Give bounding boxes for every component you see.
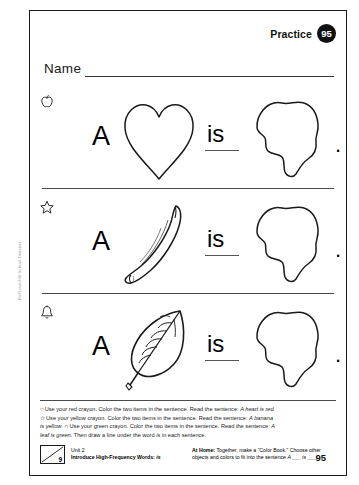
instruction-line-3: is yellow. ∩Use your green crayon. Color…: [40, 422, 336, 431]
instruction-line-1: ○Use your red crayon. Color the two item…: [40, 405, 336, 414]
word-is[interactable]: is: [207, 332, 239, 361]
at-home-note: At Home: Together, make a “Color Book.” …: [192, 447, 332, 461]
instruction-1-sentence: A heart is red.: [240, 406, 275, 412]
blob-outline-blank[interactable]: [252, 202, 324, 284]
lesson-label: Introduce High-Frequency Words: is: [71, 454, 181, 461]
name-field-row: Name: [44, 61, 334, 77]
instruction-4-text: Then draw a line under the word: [72, 432, 156, 438]
apple-icon: [39, 94, 55, 111]
leaf-outline-picture[interactable]: [118, 303, 200, 393]
sentence-period: .: [335, 351, 341, 360]
lesson-prefix: Introduce High-Frequency Words:: [71, 454, 156, 460]
instruction-4-text-end: in each sentence.: [160, 432, 206, 438]
instruction-2-sentence-cont: is yellow.: [40, 423, 63, 429]
footer-block: 9 Unit 2 Introduce High-Frequency Words:…: [40, 445, 336, 469]
sentence-period: .: [335, 246, 341, 255]
word-underline: [205, 150, 239, 151]
sentence-content: A is: [92, 196, 342, 291]
book-number: 9: [58, 456, 62, 463]
practice-header: Practice 95: [270, 24, 336, 43]
at-home-frame: A ___ is ___.: [287, 454, 317, 460]
instruction-3-sentence: A: [271, 423, 275, 429]
instruction-line-4: leaf is green. Then draw a line under th…: [40, 431, 336, 440]
blob-outline-blank[interactable]: [252, 97, 324, 179]
worksheet-sheet: Practice 95 Name A: [29, 10, 347, 476]
instruction-1-text: Use your red crayon. Color the two items…: [45, 406, 241, 412]
word-is-text: is: [207, 225, 224, 252]
instruction-2-text: Use your yellow crayon. Color the two it…: [46, 415, 249, 421]
word-is-text: is: [207, 330, 224, 357]
name-label: Name: [44, 61, 81, 77]
unit-label: Unit 2: [71, 447, 181, 454]
practice-number-badge: 95: [317, 24, 336, 43]
row-divider: [42, 293, 334, 294]
instruction-3-text: Use your green crayon. Color the two ite…: [70, 423, 272, 429]
sentence-period: .: [335, 141, 341, 150]
letter-a: A: [92, 333, 110, 360]
sentence-content: A: [92, 301, 342, 396]
instruction-3-sentence-cont: leaf is green.: [40, 432, 72, 438]
instruction-line-2: ☆Use your yellow crayon. Color the two i…: [40, 414, 336, 423]
lesson-word: is: [156, 454, 160, 460]
word-is[interactable]: is: [207, 122, 239, 151]
sentence-row: A: [30, 293, 348, 398]
worksheet-page: McGraw-Hill School Division Practice 95 …: [0, 0, 359, 485]
page-number: 95: [315, 452, 326, 463]
sentence-row: A is: [30, 188, 348, 293]
word-underline: [205, 255, 239, 256]
word-is-text: is: [207, 120, 224, 147]
bell-glyph-icon: ∩: [64, 423, 68, 429]
bell-icon: [39, 304, 55, 321]
publisher-credit: McGraw-Hill School Division: [17, 242, 22, 300]
instructions-block: ○Use your red crayon. Color the two item…: [40, 400, 336, 439]
heart-outline-picture[interactable]: [118, 93, 200, 183]
word-is[interactable]: is: [207, 227, 239, 256]
at-home-label: At Home:: [192, 447, 215, 453]
instruction-2-sentence: A banana: [249, 415, 273, 421]
book-number-box: 9: [40, 445, 65, 464]
row-divider: [42, 188, 334, 189]
letter-a: A: [92, 228, 110, 255]
blob-outline-blank[interactable]: [252, 307, 324, 389]
sentence-content: A is .: [92, 91, 342, 186]
banana-outline-picture[interactable]: [118, 198, 200, 288]
letter-a: A: [92, 123, 110, 150]
star-glyph-icon: ☆: [40, 415, 45, 421]
practice-label: Practice: [270, 28, 312, 40]
unit-info: Unit 2 Introduce High-Frequency Words: i…: [71, 447, 181, 461]
word-underline: [205, 360, 239, 361]
apple-glyph-icon: ○: [40, 406, 44, 412]
name-input-line[interactable]: [85, 65, 334, 77]
sentence-row: A is .: [30, 83, 348, 188]
star-icon: [39, 199, 55, 216]
